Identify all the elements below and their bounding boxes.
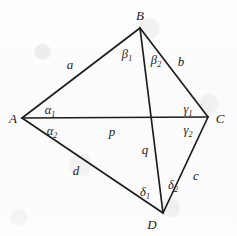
vertex-label-b: B: [136, 9, 144, 22]
angle-label-beta1: β1: [122, 48, 132, 63]
vertex-label-d: D: [147, 218, 156, 231]
angle-label-gamma2: γ2: [183, 124, 192, 139]
side-label-c: c: [193, 169, 199, 182]
angle-label-gamma1: γ1: [183, 103, 192, 118]
side-label-b: b: [178, 55, 185, 68]
diagonal-label-p: p: [109, 125, 116, 138]
diagonal-label-q: q: [142, 143, 149, 156]
angle-label-alpha1: α1: [45, 104, 56, 119]
side-label-d: d: [73, 164, 80, 177]
side-label-a: a: [67, 58, 74, 71]
geometry-figure: ABCDabcdpqα1α2β1β2γ1γ2δ1δ2: [0, 0, 237, 236]
angle-label-beta2: β2: [151, 54, 161, 69]
angle-label-alpha2: α2: [47, 125, 58, 140]
vertex-label-c: C: [216, 112, 225, 125]
side-ab: [22, 28, 140, 118]
angle-label-delta2: δ2: [168, 179, 178, 194]
quadrilateral-drawing: [0, 0, 237, 236]
vertex-label-a: A: [9, 112, 17, 125]
angle-label-delta1: δ1: [140, 186, 150, 201]
